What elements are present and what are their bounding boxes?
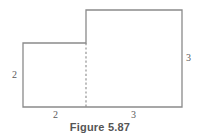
dimension-label-bottom-left-width: 2 xyxy=(53,110,58,120)
dimension-label-right-height: 3 xyxy=(186,53,191,63)
composite-polygon-diagram xyxy=(0,0,200,139)
dimension-label-bottom-right-width: 3 xyxy=(131,110,136,120)
l-shape-outline xyxy=(23,10,182,107)
figure-caption: Figure 5.87 xyxy=(0,121,200,133)
dimension-label-left-height: 2 xyxy=(12,70,17,80)
figure-container: 2 3 2 3 Figure 5.87 xyxy=(0,0,200,139)
